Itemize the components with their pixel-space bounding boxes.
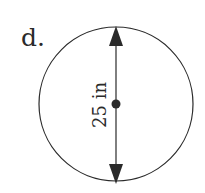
problem-label: d. — [21, 23, 45, 52]
circle-diagram: d. 25 in — [0, 0, 205, 193]
diameter-label: 25 in — [89, 82, 110, 128]
arrowhead-up-icon — [109, 26, 123, 46]
center-point — [112, 100, 121, 109]
